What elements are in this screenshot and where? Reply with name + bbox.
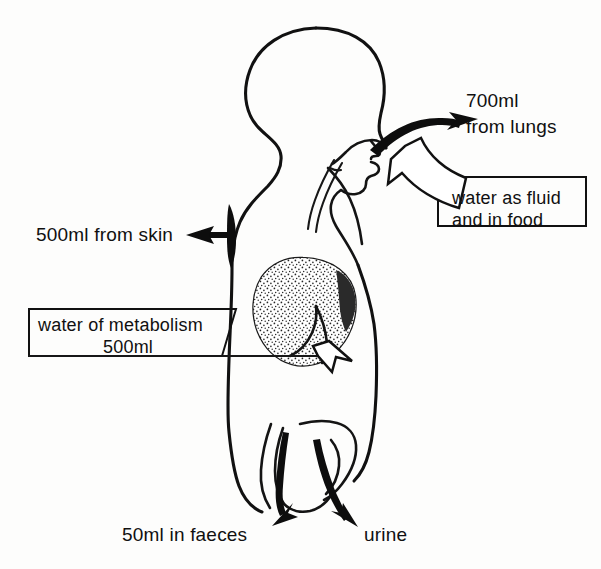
bowel-tube-left: [261, 424, 271, 508]
cranium-right-outline: [316, 28, 386, 148]
metabolism-hollow-arrow: [313, 341, 352, 372]
water-balance-diagram: 700ml from lungs 500ml from skin water a…: [0, 0, 601, 569]
faeces-label: 50ml in faeces: [122, 524, 247, 545]
intake-callout-line1: water as fluid: [451, 188, 561, 208]
trachea-line-inner: [316, 163, 342, 232]
skin-arrow-shaft: [208, 232, 232, 238]
stomach-organ: [250, 252, 365, 372]
skin-arrow: [186, 226, 232, 244]
lips-and-chin-profile: [341, 162, 379, 194]
metabolism-callout-line2: 500ml: [103, 337, 153, 357]
lungs-label-line2: from lungs: [466, 116, 557, 137]
urine-label: urine: [364, 524, 407, 545]
metabolism-callout-line1: water of metabolism: [37, 315, 203, 335]
jaw-line: [331, 190, 358, 265]
figure-canvas: 700ml from lungs 500ml from skin water a…: [0, 0, 601, 569]
skin-label: 500ml from skin: [36, 224, 173, 245]
lungs-label-line1: 700ml: [466, 90, 519, 111]
intake-callout-line2: and in food: [452, 210, 543, 230]
